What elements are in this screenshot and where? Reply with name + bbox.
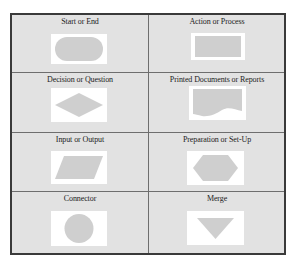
shape-box (191, 33, 245, 60)
document-shape-icon (189, 86, 246, 120)
process-rectangle-icon (191, 33, 245, 60)
shape-box (51, 88, 107, 122)
symbol-label: Start or End (12, 17, 148, 26)
cell-action-or-process: Action or Process (149, 15, 285, 72)
shape-box (187, 211, 244, 245)
symbol-label: Input or Output (12, 135, 148, 144)
decision-diamond-icon (51, 88, 107, 122)
cell-start-or-end: Start or End (12, 15, 148, 72)
cell-input-or-output: Input or Output (12, 133, 148, 191)
terminal-shape-icon (51, 34, 107, 64)
shape-box (51, 151, 107, 184)
merge-triangle-icon (187, 211, 244, 245)
shape-box (187, 151, 244, 185)
cell-connector: Connector (12, 192, 148, 253)
shape-box (51, 34, 107, 64)
input-output-parallelogram-icon (51, 151, 107, 184)
symbol-label: Merge (149, 194, 285, 203)
shape-box (189, 86, 246, 120)
preparation-hexagon-icon (187, 151, 244, 185)
symbol-label: Connector (12, 194, 148, 203)
symbol-label: Decision or Question (12, 75, 148, 84)
cell-preparation-or-setup: Preparation or Set-Up (149, 133, 285, 191)
symbol-label: Printed Documents or Reports (149, 75, 285, 84)
cell-printed-documents: Printed Documents or Reports (149, 73, 285, 132)
cell-decision-or-question: Decision or Question (12, 73, 148, 132)
symbol-label: Preparation or Set-Up (149, 135, 285, 144)
shape-box (51, 211, 107, 246)
symbol-label: Action or Process (149, 17, 285, 26)
connector-circle-icon (51, 211, 107, 246)
flowchart-symbols-table: Start or End Action or Process Decision … (10, 13, 286, 255)
cell-merge: Merge (149, 192, 285, 253)
